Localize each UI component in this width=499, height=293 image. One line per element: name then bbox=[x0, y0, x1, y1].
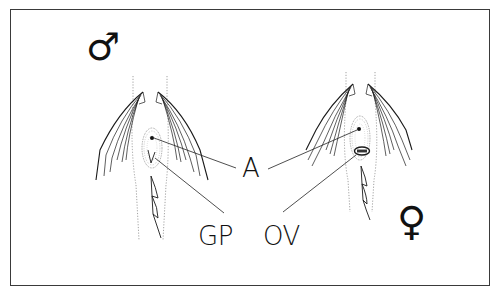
female-specimen bbox=[268, 72, 412, 220]
female-right-fin bbox=[366, 84, 412, 166]
female-ovipositor bbox=[355, 147, 370, 155]
male-leader-lines bbox=[154, 138, 236, 213]
female-body-outline bbox=[344, 72, 376, 212]
male-anal-region bbox=[142, 128, 162, 168]
male-symbol: ♂ bbox=[86, 28, 120, 66]
female-tail bbox=[361, 166, 370, 220]
male-left-fin bbox=[96, 92, 145, 180]
female-anus-dot bbox=[357, 127, 361, 131]
male-specimen bbox=[96, 76, 236, 240]
male-tail bbox=[151, 176, 161, 238]
label-genital-papilla: GP bbox=[198, 223, 233, 249]
female-anal-region bbox=[350, 116, 370, 160]
male-genital-papilla bbox=[148, 150, 155, 163]
specimen-drawings bbox=[0, 0, 499, 293]
male-right-fin bbox=[156, 92, 208, 180]
female-left-fin bbox=[306, 84, 355, 166]
diagram-figure: ♂ ♀ A GP OV bbox=[0, 0, 499, 293]
label-ovipositor: OV bbox=[263, 223, 300, 249]
male-anus-dot bbox=[150, 136, 154, 140]
female-symbol: ♀ bbox=[397, 201, 426, 241]
label-anus: A bbox=[242, 155, 260, 181]
female-leader-lines bbox=[268, 130, 357, 212]
